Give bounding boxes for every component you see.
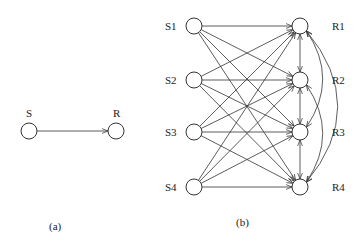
- node-label-s1: S1: [165, 20, 177, 32]
- node-s: [21, 123, 37, 139]
- sender-receiver-edges: [198, 26, 295, 187]
- node-label-r2: R2: [332, 74, 345, 86]
- node-label-r1: R1: [332, 20, 345, 32]
- nodes-b: S1S2S3S4R1R2R3R4: [165, 18, 345, 195]
- node-label-r3: R3: [332, 126, 345, 138]
- receiver-links: [300, 31, 338, 182]
- node-r4: [292, 179, 308, 195]
- link-r2-r4: [306, 85, 322, 182]
- node-r3: [292, 124, 308, 140]
- node-s2: [186, 72, 202, 88]
- caption-a: (a): [49, 220, 62, 233]
- node-label-s3: S3: [165, 126, 177, 138]
- node-s3: [186, 124, 202, 140]
- node-label-s4: S4: [165, 181, 177, 193]
- node-r2: [292, 72, 308, 88]
- link-r1-r3: [306, 31, 322, 127]
- diagram-b: S1S2S3S4R1R2R3R4 (b): [165, 18, 345, 229]
- node-label-s2: S2: [165, 74, 177, 86]
- node-r: [108, 123, 124, 139]
- diagram-a: S R (a): [21, 107, 124, 233]
- node-s4: [186, 179, 202, 195]
- link-r1-r4: [306, 31, 337, 182]
- node-s1: [186, 18, 202, 34]
- node-label-r4: R4: [332, 181, 345, 193]
- node-label-r: R: [113, 107, 121, 119]
- node-r1: [292, 18, 308, 34]
- caption-b: (b): [236, 216, 249, 229]
- diagram-canvas: S R (a) S1S2S3S4R1R2R3R4 (b): [0, 0, 363, 247]
- node-label-s: S: [26, 107, 32, 119]
